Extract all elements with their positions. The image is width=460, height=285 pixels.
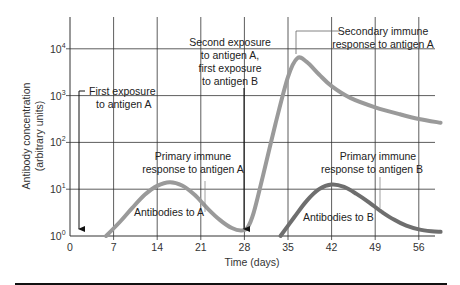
immune-response-chart: 100101102103104 0714212835424956 Antibod… — [0, 0, 460, 285]
second-exposure-label-line4: to antigen B — [202, 75, 258, 87]
x-tick-label: 21 — [195, 241, 207, 253]
second-exposure-label-line2: to antigen A, — [201, 49, 259, 61]
y-axis-title: Antibody concentration (arbitrary units) — [20, 82, 45, 189]
y-tick-label: 103 — [50, 89, 66, 102]
first-exposure-label-line2: to antigen A — [96, 98, 151, 110]
y-axis-title-line2: (arbitrary units) — [33, 101, 45, 172]
y-tick-label: 102 — [50, 135, 66, 148]
x-axis-ticks: 0714212835424956 — [67, 241, 425, 253]
primary-response-a-line1: Primary immune — [155, 150, 232, 162]
y-axis-ticks: 100101102103104 — [50, 42, 66, 242]
first-exposure-arrow — [79, 91, 85, 229]
second-exposure-label-line1: Second exposure — [189, 36, 271, 48]
y-tick-label: 101 — [50, 182, 66, 195]
y-axis-title-line1: Antibody concentration — [20, 82, 32, 189]
x-tick-label: 7 — [111, 241, 117, 253]
y-tick-label: 104 — [50, 42, 66, 55]
x-axis-title: Time (days) — [224, 256, 279, 268]
primary-response-a-line2: response to antigen A — [142, 163, 244, 175]
x-tick-label: 28 — [239, 241, 251, 253]
primary-response-b-line1: Primary immune — [340, 150, 417, 162]
secondary-response-a-line1: Secondary immune — [338, 25, 429, 37]
x-tick-label: 0 — [67, 241, 73, 253]
second-exposure-label-line3: first exposure — [198, 62, 261, 74]
annotation-secondary-response-a: Secondary immune response to antigen A — [296, 25, 434, 54]
x-tick-label: 49 — [369, 241, 381, 253]
first-exposure-label-line1: First exposure — [89, 85, 156, 97]
x-tick-label: 35 — [282, 241, 294, 253]
primary-response-b-line2: response to antigen B — [321, 163, 423, 175]
annotation-primary-response-b: Primary immune response to antigen B — [321, 150, 423, 208]
secondary-response-a-line2: response to antigen A — [332, 38, 434, 50]
series-label-b: Antibodies to B — [303, 211, 374, 223]
x-tick-label: 56 — [413, 241, 425, 253]
y-tick-label: 100 — [50, 229, 66, 242]
x-tick-label: 42 — [326, 241, 338, 253]
x-tick-label: 14 — [151, 241, 163, 253]
series-label-a: Antibodies to A — [134, 206, 204, 218]
